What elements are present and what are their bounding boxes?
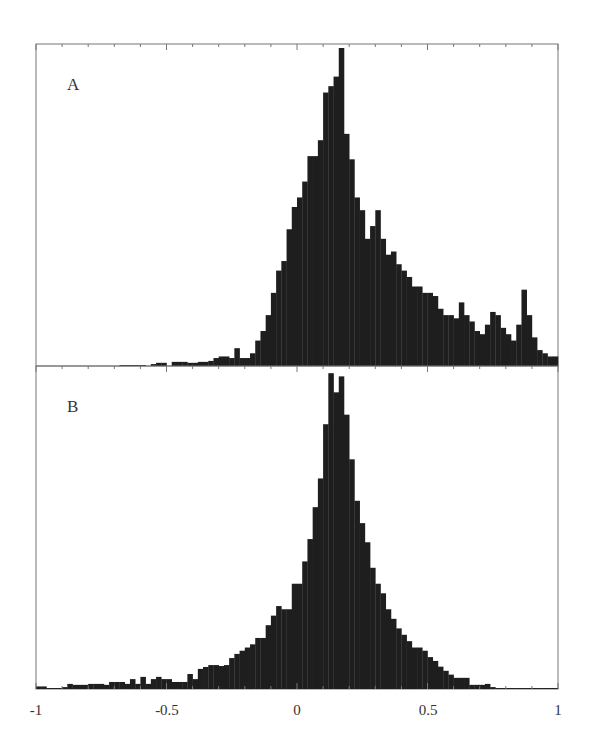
histogram-bar bbox=[433, 661, 439, 689]
histogram-bar bbox=[370, 226, 376, 366]
histogram-bar bbox=[443, 315, 449, 366]
histogram-bar bbox=[537, 688, 543, 689]
histogram-bar bbox=[193, 679, 199, 689]
histogram-bar bbox=[354, 501, 360, 689]
histogram-bar bbox=[67, 684, 73, 689]
histogram-bar bbox=[229, 658, 235, 689]
histogram-bar bbox=[417, 287, 423, 367]
histogram-bar bbox=[281, 261, 287, 366]
histogram-bar bbox=[245, 358, 251, 366]
histogram-bar bbox=[542, 353, 548, 366]
histogram-bar bbox=[57, 688, 63, 689]
histogram-bar bbox=[401, 271, 407, 366]
panel-a-bars bbox=[120, 48, 559, 366]
histogram-bar bbox=[213, 665, 219, 689]
histogram-bar bbox=[114, 682, 120, 689]
histogram-bar bbox=[297, 197, 303, 366]
histogram-bar bbox=[208, 361, 214, 366]
histogram-bar bbox=[365, 239, 371, 366]
histogram-bar bbox=[339, 48, 345, 366]
histogram-bar bbox=[224, 356, 230, 366]
histogram-bar bbox=[381, 593, 387, 689]
histogram-bar bbox=[73, 685, 79, 689]
histogram-bar bbox=[271, 293, 277, 366]
histogram-bar bbox=[99, 684, 105, 689]
histogram-bar bbox=[553, 688, 559, 689]
histogram-bar bbox=[459, 302, 465, 366]
histogram-bar bbox=[370, 568, 376, 689]
histogram-bar bbox=[495, 688, 501, 689]
histogram-bar bbox=[234, 654, 240, 689]
histogram-bar bbox=[521, 688, 527, 689]
histogram-bar bbox=[375, 584, 381, 689]
histogram-bar bbox=[490, 687, 496, 689]
histogram-bar bbox=[62, 687, 68, 689]
histogram-bar bbox=[260, 331, 266, 366]
histogram-bar bbox=[208, 665, 214, 689]
histogram-bar bbox=[130, 679, 136, 689]
panel-a: A bbox=[36, 44, 558, 372]
histogram-bar bbox=[229, 358, 235, 366]
x-tick-label: 1 bbox=[554, 702, 562, 718]
histogram-bar bbox=[140, 677, 146, 689]
histogram-bar bbox=[83, 685, 89, 689]
histogram-figure: A B -1 -0.5 0 0.5 1 bbox=[0, 0, 591, 753]
histogram-bar bbox=[224, 665, 230, 689]
histogram-bar bbox=[344, 415, 350, 689]
panel-a-top-ticks bbox=[36, 44, 558, 50]
histogram-bar bbox=[532, 337, 538, 366]
histogram-bar bbox=[396, 628, 402, 689]
histogram-bar bbox=[213, 358, 219, 366]
histogram-bar bbox=[234, 348, 240, 366]
histogram-bar bbox=[349, 459, 355, 689]
histogram-bar bbox=[506, 334, 512, 366]
histogram-bar bbox=[469, 321, 475, 366]
histogram-bar bbox=[448, 675, 454, 689]
histogram-bar bbox=[88, 684, 94, 689]
histogram-bar bbox=[511, 688, 517, 689]
histogram-bar bbox=[548, 688, 554, 689]
histogram-bar bbox=[516, 688, 522, 689]
histogram-bar bbox=[276, 271, 282, 366]
histogram-bar bbox=[125, 684, 131, 689]
histogram-bar bbox=[349, 159, 355, 366]
histogram-bar bbox=[250, 353, 256, 366]
x-axis-tick-labels: -1 -0.5 0 0.5 1 bbox=[30, 702, 562, 718]
histogram-bar bbox=[485, 684, 491, 689]
panel-a-label: A bbox=[67, 75, 80, 94]
histogram-bar bbox=[172, 682, 178, 689]
histogram-bar bbox=[553, 356, 559, 366]
x-tick-label: 0 bbox=[293, 702, 301, 718]
histogram-bar bbox=[375, 210, 381, 366]
histogram-bar bbox=[245, 648, 251, 689]
histogram-bar bbox=[323, 424, 329, 689]
histogram-bar bbox=[250, 644, 256, 689]
histogram-bar bbox=[255, 341, 261, 366]
histogram-bar bbox=[459, 678, 465, 689]
histogram-bar bbox=[501, 688, 507, 689]
histogram-bar bbox=[328, 86, 334, 366]
histogram-bar bbox=[407, 277, 413, 366]
histogram-bar bbox=[328, 373, 334, 689]
histogram-bar bbox=[276, 606, 282, 689]
histogram-bar bbox=[480, 685, 486, 689]
x-tick-label: -0.5 bbox=[155, 702, 179, 718]
histogram-bar bbox=[307, 539, 313, 689]
histogram-bar bbox=[313, 507, 319, 689]
histogram-bar bbox=[93, 684, 99, 689]
histogram-bar bbox=[219, 356, 225, 366]
histogram-bar bbox=[266, 625, 272, 689]
histogram-bar bbox=[511, 341, 517, 366]
histogram-bar bbox=[146, 684, 152, 689]
histogram-bar bbox=[297, 584, 303, 689]
histogram-bar bbox=[438, 667, 444, 689]
histogram-bar bbox=[521, 290, 527, 366]
histogram-bar bbox=[438, 309, 444, 366]
histogram-bar bbox=[313, 156, 319, 366]
histogram-bar bbox=[339, 376, 345, 689]
histogram-bar bbox=[490, 312, 496, 366]
histogram-bar bbox=[474, 331, 480, 366]
histogram-bar bbox=[318, 140, 324, 366]
histogram-bar bbox=[120, 682, 126, 689]
histogram-bar bbox=[381, 239, 387, 366]
